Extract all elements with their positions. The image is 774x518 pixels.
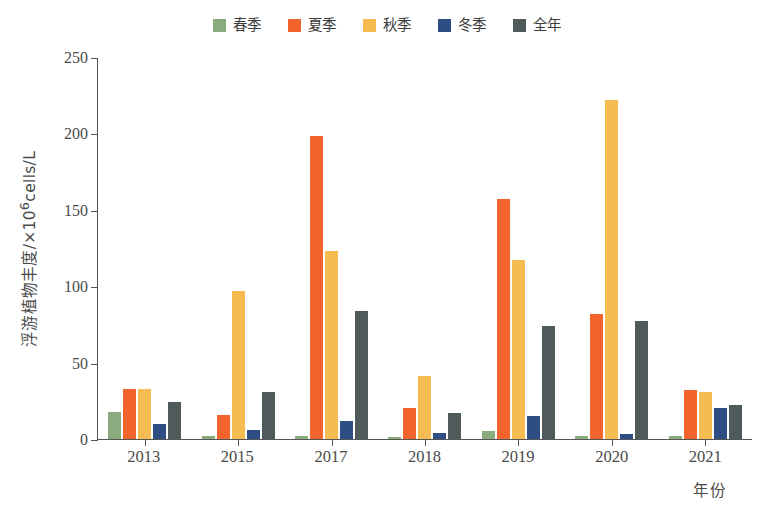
y-axis-tick: [91, 134, 98, 135]
bar-冬季-2020[interactable]: [620, 434, 633, 439]
legend-swatch-icon: [513, 19, 526, 32]
x-axis-tick: [705, 439, 706, 446]
bar-春季-2013[interactable]: [108, 412, 121, 440]
x-axis-tick: [238, 439, 239, 446]
bar-group-2015: [191, 58, 284, 439]
y-axis-tick: [91, 440, 98, 441]
y-axis-tick-label: 200: [50, 125, 88, 143]
bar-全年-2018[interactable]: [448, 413, 461, 439]
bar-groups: [98, 58, 752, 439]
legend-item-label: 春季: [233, 18, 262, 33]
bar-夏季-2020[interactable]: [590, 314, 603, 439]
x-axis-tick-label: 2015: [191, 447, 285, 467]
x-axis-tick-label: 2017: [284, 447, 378, 467]
legend-item-3[interactable]: 冬季: [438, 18, 487, 33]
bar-全年-2013[interactable]: [168, 402, 181, 439]
x-axis-tick-label: 2018: [378, 447, 472, 467]
bar-冬季-2021[interactable]: [714, 408, 727, 439]
bar-夏季-2013[interactable]: [123, 389, 136, 439]
legend-swatch-icon: [288, 19, 301, 32]
bar-group-2019: [472, 58, 565, 439]
legend-item-label: 全年: [533, 18, 562, 33]
y-axis-tick: [91, 211, 98, 212]
bar-group-2017: [285, 58, 378, 439]
bar-夏季-2017[interactable]: [310, 136, 323, 439]
legend-item-4[interactable]: 全年: [513, 18, 562, 33]
bar-冬季-2015[interactable]: [247, 430, 260, 439]
legend-item-0[interactable]: 春季: [213, 18, 262, 33]
x-axis-title: 年份: [693, 478, 726, 500]
bar-全年-2021[interactable]: [729, 405, 742, 439]
y-axis-title-pre: 浮游植物丰度/×10: [21, 210, 39, 347]
plot-area: [97, 58, 752, 440]
x-axis-tick: [612, 439, 613, 446]
bar-冬季-2013[interactable]: [153, 424, 166, 439]
bar-group-2020: [565, 58, 658, 439]
bar-秋季-2017[interactable]: [325, 251, 338, 439]
bar-秋季-2020[interactable]: [605, 100, 618, 439]
bar-冬季-2019[interactable]: [527, 416, 540, 439]
y-axis-title-post: cells/L: [21, 151, 39, 202]
bar-春季-2020[interactable]: [575, 436, 588, 439]
bar-秋季-2015[interactable]: [232, 291, 245, 439]
bar-全年-2017[interactable]: [355, 311, 368, 439]
legend-swatch-icon: [213, 19, 226, 32]
bar-全年-2019[interactable]: [542, 326, 555, 439]
legend-item-label: 夏季: [308, 18, 337, 33]
bar-夏季-2015[interactable]: [217, 415, 230, 439]
legend-swatch-icon: [438, 19, 451, 32]
bar-夏季-2018[interactable]: [403, 408, 416, 439]
bar-夏季-2021[interactable]: [684, 390, 697, 439]
legend-swatch-icon: [363, 19, 376, 32]
y-axis-tick-label: 0: [50, 431, 88, 449]
legend-item-1[interactable]: 夏季: [288, 18, 337, 33]
bar-秋季-2021[interactable]: [699, 392, 712, 439]
x-axis-tick: [145, 439, 146, 446]
bar-夏季-2019[interactable]: [497, 199, 510, 439]
bar-冬季-2017[interactable]: [340, 421, 353, 439]
bar-group-2021: [659, 58, 752, 439]
bar-全年-2015[interactable]: [262, 392, 275, 439]
y-axis-tick-label: 50: [50, 355, 88, 373]
y-axis-tick-label: 100: [50, 278, 88, 296]
bar-秋季-2019[interactable]: [512, 260, 525, 439]
y-axis-title-exponent: 6: [17, 202, 32, 211]
legend-item-label: 秋季: [383, 18, 412, 33]
bar-春季-2018[interactable]: [388, 437, 401, 439]
bar-春季-2019[interactable]: [482, 431, 495, 439]
x-axis-tick-label: 2020: [565, 447, 659, 467]
bar-冬季-2018[interactable]: [433, 433, 446, 439]
y-axis-tick: [91, 364, 98, 365]
bar-group-2018: [378, 58, 471, 439]
x-axis-tick: [518, 439, 519, 446]
bar-春季-2015[interactable]: [202, 436, 215, 439]
y-axis-tick: [91, 287, 98, 288]
y-axis-tick: [91, 58, 98, 59]
x-axis-tick: [332, 439, 333, 446]
legend-item-2[interactable]: 秋季: [363, 18, 412, 33]
y-axis-tick-label: 150: [50, 202, 88, 220]
x-axis-tick-labels: 2013201520172018201920202021: [97, 447, 752, 467]
y-axis-tick-label: 250: [50, 49, 88, 67]
x-axis-tick: [425, 439, 426, 446]
x-axis-tick-label: 2013: [97, 447, 191, 467]
bar-春季-2021[interactable]: [669, 436, 682, 439]
bar-group-2013: [98, 58, 191, 439]
bar-秋季-2018[interactable]: [418, 376, 431, 439]
x-axis-tick-label: 2021: [658, 447, 752, 467]
bar-全年-2020[interactable]: [635, 321, 648, 439]
bar-春季-2017[interactable]: [295, 436, 308, 439]
phytoplankton-abundance-bar-chart: 春季夏季秋季冬季全年 浮游植物丰度/×106cells/L 0501001502…: [0, 0, 774, 518]
legend-item-label: 冬季: [458, 18, 487, 33]
bar-秋季-2013[interactable]: [138, 389, 151, 439]
x-axis-tick-label: 2019: [471, 447, 565, 467]
chart-legend: 春季夏季秋季冬季全年: [0, 18, 774, 33]
